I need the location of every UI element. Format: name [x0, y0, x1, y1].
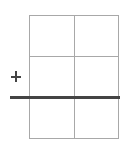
grid-column-divider: [74, 15, 75, 139]
grid-row-divider: [29, 56, 119, 57]
thick-horizontal-line: [10, 96, 120, 99]
plus-icon-vertical-stroke: [15, 71, 17, 82]
